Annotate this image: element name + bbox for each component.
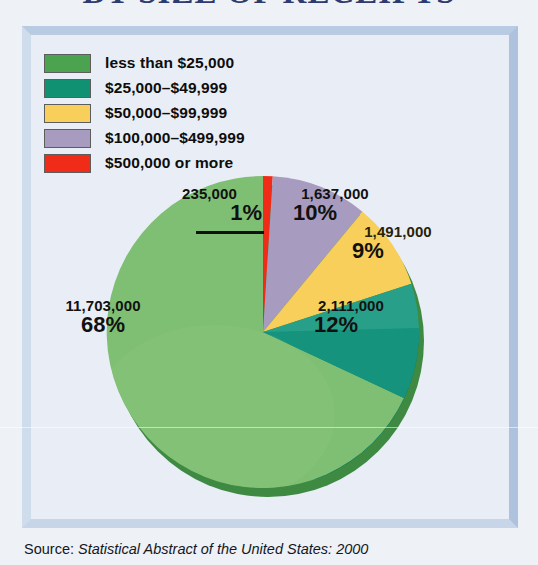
legend: less than $25,000 $25,000–$49,999 $50,00…	[44, 52, 344, 177]
legend-swatch-icon	[44, 104, 91, 123]
legend-item-100000-499999[interactable]: $100,000–$499,999	[44, 127, 344, 149]
legend-item-less-than-25000[interactable]: less than $25,000	[44, 52, 344, 74]
data-label-percent: 12%	[300, 314, 402, 336]
data-label-value: 1,491,000	[348, 224, 448, 239]
legend-swatch-icon	[44, 154, 91, 173]
data-label-500000-or-more: 235,000 1%	[180, 186, 276, 224]
data-label-percent: 10%	[287, 202, 383, 224]
data-label-percent: 9%	[348, 240, 448, 262]
legend-item-50000-99999[interactable]: $50,000–$99,999	[44, 102, 344, 124]
data-label-percent: 68%	[38, 314, 168, 336]
pie-shading	[95, 325, 335, 505]
data-label-50000-99999: 1,491,000 9%	[348, 224, 448, 262]
page-title-strip: BY SIZE OF RECEIPTS	[0, 0, 538, 14]
source-title: Statistical Abstract of the United State…	[78, 541, 368, 557]
legend-item-label: $50,000–$99,999	[105, 104, 227, 122]
source-label: Source:	[24, 541, 78, 557]
data-label-value: 235,000	[180, 186, 276, 201]
data-label-value: 11,703,000	[38, 298, 168, 313]
data-label-percent: 1%	[180, 202, 276, 224]
data-label-25000-49999: 2,111,000 12%	[300, 298, 402, 336]
legend-swatch-icon	[44, 129, 91, 148]
legend-swatch-icon	[44, 79, 91, 98]
data-label-value: 2,111,000	[300, 298, 402, 313]
data-label-100000-499999: 1,637,000 10%	[287, 186, 383, 224]
source-note: Source: Statistical Abstract of the Unit…	[24, 541, 368, 557]
legend-item-label: $100,000–$499,999	[105, 129, 245, 147]
legend-swatch-icon	[44, 54, 91, 73]
data-label-less-than-25000: 11,703,000 68%	[38, 298, 168, 336]
page-title: BY SIZE OF RECEIPTS	[0, 0, 538, 11]
leader-line	[196, 231, 264, 234]
legend-item-label: $25,000–$49,999	[105, 79, 227, 97]
legend-item-25000-49999[interactable]: $25,000–$49,999	[44, 77, 344, 99]
data-label-value: 1,637,000	[287, 186, 383, 201]
legend-item-label: less than $25,000	[105, 54, 234, 72]
